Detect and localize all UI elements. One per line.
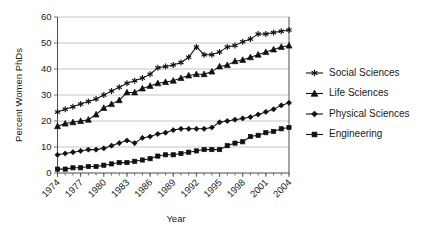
star-marker (132, 78, 137, 84)
legend-label: Engineering (329, 128, 382, 139)
star-marker (70, 104, 75, 110)
diamond-marker (248, 115, 253, 120)
square-marker (109, 162, 113, 166)
square-marker (71, 166, 75, 170)
star-marker (63, 106, 68, 112)
square-marker (163, 153, 167, 157)
legend-item-life-sciences[interactable]: Life Sciences (306, 87, 388, 98)
square-marker (125, 161, 129, 165)
diamond-marker (148, 134, 153, 139)
diamond-marker (194, 126, 199, 131)
square-marker (117, 161, 121, 165)
legend-item-physical-sciences[interactable]: Physical Sciences (306, 108, 410, 119)
diamond-marker (240, 116, 245, 121)
legend-label: Life Sciences (329, 87, 388, 98)
diamond-marker (101, 146, 106, 151)
y-axis-title: Percent Women PhDs (13, 48, 24, 142)
y-tick-label: 20 (41, 115, 52, 126)
diamond-marker (263, 109, 268, 114)
diamond-marker (286, 100, 291, 105)
square-marker (287, 125, 291, 129)
y-tick-label: 60 (41, 11, 52, 22)
square-marker (241, 140, 245, 144)
square-marker (171, 153, 175, 157)
square-marker (179, 151, 183, 155)
square-marker (312, 132, 317, 137)
y-tick-label: 50 (41, 37, 52, 48)
star-marker (140, 75, 145, 81)
square-marker (194, 149, 198, 153)
y-tick-label: 30 (41, 89, 52, 100)
diamond-marker (171, 128, 176, 133)
square-marker (271, 129, 275, 133)
series-line (58, 30, 290, 112)
x-tick-label: 1989 (155, 177, 178, 200)
series-physical-sciences (55, 100, 292, 157)
triangle-marker (224, 62, 230, 68)
diamond-marker (312, 111, 318, 117)
square-marker (248, 135, 252, 139)
diamond-marker (202, 126, 207, 131)
chart-figure: 0102030405060 19741977198019831986198919… (0, 0, 446, 231)
square-marker (55, 167, 59, 171)
diamond-marker (186, 126, 191, 131)
diamond-marker (86, 147, 91, 152)
star-marker (55, 109, 60, 115)
diamond-marker (124, 138, 129, 143)
square-marker (86, 164, 90, 168)
diamond-marker (93, 147, 98, 152)
square-marker (233, 141, 237, 145)
legend: Social SciencesLife SciencesPhysical Sci… (306, 67, 410, 140)
triangle-marker (101, 105, 107, 111)
diamond-marker (70, 150, 75, 155)
triangle-marker (85, 117, 91, 123)
star-marker (109, 88, 114, 94)
square-marker (210, 148, 214, 152)
x-tick-label: 1980 (85, 177, 108, 200)
x-tick-label: 1983 (109, 177, 132, 200)
legend-label: Social Sciences (329, 67, 400, 78)
square-marker (94, 164, 98, 168)
x-tick-label: 1995 (201, 177, 224, 200)
triangle-marker (109, 101, 115, 107)
star-marker (248, 36, 253, 42)
square-marker (156, 154, 160, 158)
phd-percentage-line-chart: 0102030405060 19741977198019831986198919… (0, 0, 446, 231)
y-tick-label: 0 (46, 167, 51, 178)
x-tick-label: 2004 (271, 177, 294, 200)
data-series-group (55, 27, 293, 171)
square-marker (133, 159, 137, 163)
diamond-marker (109, 143, 114, 148)
series-line (58, 46, 290, 127)
legend-item-social-sciences[interactable]: Social Sciences (306, 67, 400, 78)
star-marker (217, 49, 222, 55)
square-marker (279, 127, 283, 131)
x-tick-label: 1974 (39, 177, 62, 200)
square-marker (63, 167, 67, 171)
square-marker (140, 158, 144, 162)
square-marker (256, 133, 260, 137)
x-tick-group: 1974197719801983198619891992199519982001… (39, 173, 293, 199)
star-marker (93, 96, 98, 102)
square-marker (148, 157, 152, 161)
diamond-marker (55, 152, 60, 157)
diamond-marker (232, 117, 237, 122)
square-marker (187, 150, 191, 154)
diamond-marker (178, 126, 183, 131)
square-marker (264, 131, 268, 135)
diamond-marker (279, 103, 284, 108)
star-marker (78, 101, 83, 107)
x-axis-title: Year (166, 213, 185, 224)
series-line (58, 128, 290, 170)
square-marker (102, 163, 106, 167)
star-marker (124, 80, 129, 86)
diamond-marker (271, 107, 276, 112)
diamond-marker (256, 112, 261, 117)
square-marker (225, 144, 229, 148)
diamond-marker (225, 118, 230, 123)
x-tick-label: 1992 (178, 177, 201, 200)
legend-item-engineering[interactable]: Engineering (306, 128, 382, 139)
diamond-marker (63, 151, 68, 156)
star-marker (178, 60, 183, 66)
square-marker (79, 166, 83, 170)
